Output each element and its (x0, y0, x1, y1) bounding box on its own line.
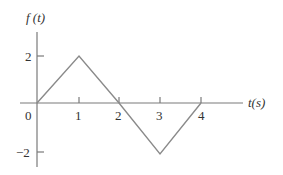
axes (20, 32, 243, 167)
x-tick-label-1: 1 (75, 108, 82, 123)
x-tick-label-2: 2 (115, 108, 122, 123)
y-axis-label: f (t) (26, 10, 45, 25)
x-tick-label-4: 4 (198, 108, 205, 123)
x-tick-label-3: 3 (156, 108, 163, 123)
chart: f (t) t(s) 2 −2 0 1 2 3 4 (0, 0, 283, 175)
x-tick-label-0: 0 (25, 108, 32, 123)
y-tick-label-neg2: −2 (16, 145, 30, 160)
series-line (37, 56, 201, 154)
x-axis-label: t(s) (248, 95, 265, 110)
y-tick-label-2: 2 (25, 49, 32, 64)
